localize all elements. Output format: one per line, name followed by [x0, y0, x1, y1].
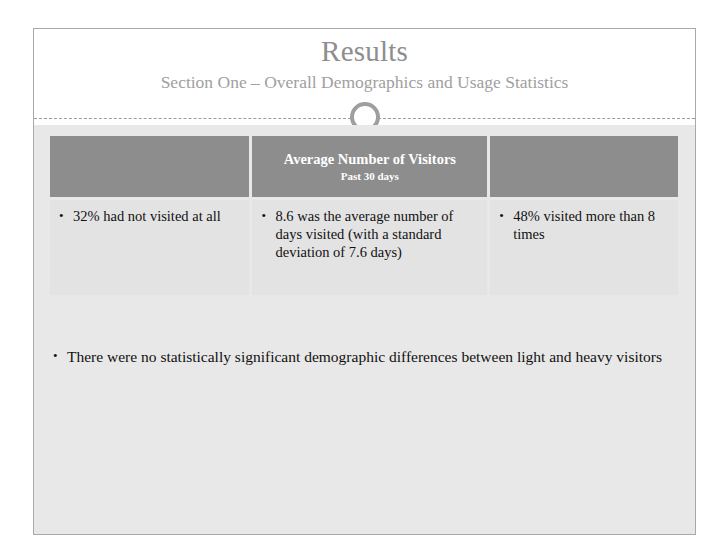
table-cell-2: • 8.6 was the average number of days vis…: [252, 200, 487, 295]
body-bullet-list: • There were no statistically significan…: [50, 347, 672, 367]
list-item: • 8.6 was the average number of days vis…: [258, 207, 481, 261]
table-header-cell-1: [50, 136, 249, 197]
bullet-icon: •: [59, 207, 64, 225]
title-divider: [34, 112, 695, 126]
table-cell-1: • 32% had not visited at all: [50, 200, 249, 295]
bullet-icon: •: [261, 207, 266, 225]
table-header-cell-2: Average Number of Visitors Past 30 days: [252, 136, 487, 197]
list-item: • There were no statistically significan…: [50, 347, 672, 367]
slide-body: Average Number of Visitors Past 30 days …: [34, 125, 695, 534]
slide: Results Section One – Overall Demographi…: [33, 28, 696, 535]
bullet-icon: •: [53, 347, 58, 365]
cell-bullet-list-1: • 32% had not visited at all: [56, 207, 243, 225]
bullet-icon: •: [499, 207, 504, 225]
table-body: • 32% had not visited at all • 8.6 was t…: [50, 200, 678, 295]
table-header-row: Average Number of Visitors Past 30 days: [50, 136, 678, 197]
statistics-table: Average Number of Visitors Past 30 days …: [47, 133, 681, 298]
slide-subtitle: Section One – Overall Demographics and U…: [34, 68, 695, 93]
list-item: • 48% visited more than 8 times: [496, 207, 672, 243]
page-title: Results: [34, 29, 695, 68]
list-item-text: 8.6 was the average number of days visit…: [275, 208, 453, 260]
list-item-text: 32% had not visited at all: [73, 208, 221, 224]
list-item-text: 48% visited more than 8 times: [513, 208, 655, 242]
list-item: • 32% had not visited at all: [56, 207, 243, 225]
list-item-text: There were no statistically significant …: [67, 348, 662, 365]
table-header-cell-3: [490, 136, 678, 197]
cell-bullet-list-2: • 8.6 was the average number of days vis…: [258, 207, 481, 261]
table-cell-3: • 48% visited more than 8 times: [490, 200, 678, 295]
table-header-title-2: Average Number of Visitors: [284, 151, 456, 167]
table-header: Average Number of Visitors Past 30 days: [50, 136, 678, 197]
slide-title-block: Results Section One – Overall Demographi…: [34, 29, 695, 112]
table-row: • 32% had not visited at all • 8.6 was t…: [50, 200, 678, 295]
cell-bullet-list-3: • 48% visited more than 8 times: [496, 207, 672, 243]
table-header-subtitle-2: Past 30 days: [258, 168, 481, 183]
